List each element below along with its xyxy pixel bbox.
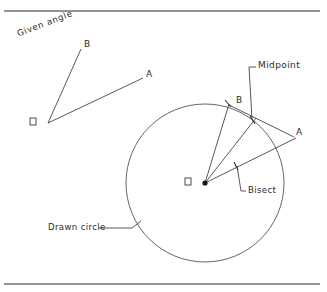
left-ray-to-a — [48, 78, 143, 123]
chord-b-a — [229, 105, 294, 137]
circle-vertex-marker — [185, 178, 191, 185]
figure-canvas — [0, 0, 327, 292]
midpoint-leader-line — [249, 67, 256, 119]
drawn-circle-label: Drawn circle — [48, 223, 106, 232]
circle-ray-to-a — [205, 138, 296, 183]
circle-label-a: A — [296, 128, 303, 137]
left-label-a: A — [146, 70, 153, 79]
bisect-label: Bisect — [248, 186, 276, 195]
construction-figure: Given angle B A Midpoint B A Bisect Draw… — [0, 0, 327, 292]
circle-centre-dot — [202, 180, 207, 185]
midpoint-label: Midpoint — [258, 61, 300, 70]
circle-ray-to-b — [205, 104, 229, 183]
left-label-b: B — [84, 40, 91, 49]
left-vertex-marker — [30, 118, 36, 125]
bisector-ray — [205, 118, 256, 183]
circle-label-b: B — [236, 96, 243, 105]
left-ray-to-b — [48, 49, 81, 123]
